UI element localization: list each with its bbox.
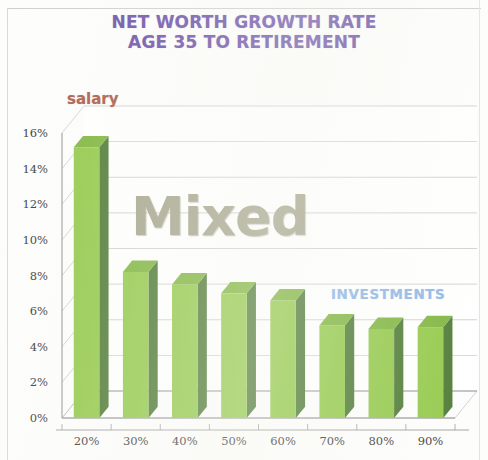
x-axis-tick-label: 90% (418, 434, 444, 448)
x-axis-tick-labels: 20%30%40%50%60%70%80%90% (0, 0, 488, 460)
x-axis-tick-label: 60% (270, 434, 296, 448)
x-axis-tick-label: 70% (319, 434, 345, 448)
scanned-chart-page: NET WORTH GROWTH RATE AGE 35 TO RETIREME… (0, 0, 488, 460)
x-axis-tick-label: 50% (221, 434, 247, 448)
x-axis-tick-label: 80% (369, 434, 395, 448)
x-axis-tick-label: 30% (123, 434, 149, 448)
x-axis-tick-label: 40% (172, 434, 198, 448)
x-axis-tick-label: 20% (74, 434, 100, 448)
